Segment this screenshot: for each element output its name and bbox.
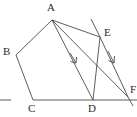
vertex-label-c: C: [28, 103, 35, 114]
vertex-label-a: A: [47, 2, 55, 13]
geometry-canvas: [0, 0, 137, 117]
segment-b-c: [16, 55, 33, 100]
segment-e-f: [100, 37, 128, 97]
vertex-label-e: E: [104, 27, 111, 38]
segment-a-f: [52, 20, 128, 97]
segment-e-d: [93, 37, 100, 100]
vertex-label-f: F: [130, 84, 136, 95]
geometry-figure: A B C D E F: [0, 0, 137, 117]
vertex-label-d: D: [88, 103, 96, 114]
line-a-f-extension-below-f: [128, 97, 133, 106]
vertex-label-b: B: [3, 46, 10, 57]
segment-a-b: [16, 20, 52, 55]
